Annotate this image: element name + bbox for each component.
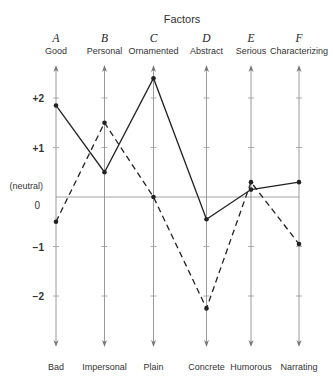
factor-letter: D (201, 32, 211, 44)
bottom-pole-label: Plain (143, 362, 163, 372)
factor-axis-f: FCharacterizingNarrating (270, 32, 328, 372)
top-pole-label: Abstract (190, 46, 224, 56)
factor-letter: E (246, 32, 254, 44)
factor-axis-b: BPersonalImpersonal (82, 32, 127, 372)
top-pole-label: Good (45, 46, 67, 56)
top-pole-label: Personal (87, 46, 123, 56)
top-pole-label: Characterizing (270, 46, 328, 56)
series-line (56, 123, 299, 309)
data-point (102, 170, 107, 175)
data-point (151, 76, 156, 81)
data-point (297, 242, 302, 247)
factor-letter: C (150, 32, 158, 44)
bottom-pole-label: Concrete (188, 362, 225, 372)
bottom-pole-label: Bad (48, 362, 64, 372)
factor-axis-c: COrnamentedPlain (128, 32, 178, 372)
data-series (54, 76, 302, 311)
data-point (204, 217, 209, 222)
factor-letter: A (51, 32, 60, 44)
data-point (297, 180, 302, 185)
data-point (204, 306, 209, 311)
factor-axis-a: AGoodBad (45, 32, 67, 372)
bottom-pole-label: Impersonal (82, 362, 127, 372)
data-point (54, 103, 59, 108)
data-point (54, 219, 59, 224)
top-pole-label: Serious (236, 46, 267, 56)
top-pole-label: Ornamented (128, 46, 178, 56)
y-tick-label: +1 (33, 143, 45, 154)
data-point (249, 180, 254, 185)
chart-title: Factors (164, 13, 201, 25)
neutral-label: (neutral) (9, 181, 43, 191)
y-tick-label: +2 (33, 93, 45, 104)
factor-axes: AGoodBadBPersonalImpersonalCOrnamentedPl… (45, 32, 328, 372)
y-tick-label: 0 (34, 200, 40, 211)
semantic-differential-chart: Factors AGoodBadBPersonalImpersonalCOrna… (0, 0, 333, 387)
bottom-pole-label: Narrating (280, 362, 317, 372)
bottom-pole-label: Humorous (230, 362, 272, 372)
factor-letter: F (294, 32, 303, 44)
series-solid (54, 76, 302, 222)
factor-letter: B (101, 32, 108, 44)
data-point (102, 120, 107, 125)
y-tick-label: −1 (33, 242, 45, 253)
series-dashed (54, 120, 302, 310)
data-point (151, 195, 156, 200)
y-axis-labels: +2+10−1−2 (33, 93, 45, 302)
factor-axis-d: DAbstractConcrete (188, 32, 225, 372)
y-tick-label: −2 (33, 291, 45, 302)
